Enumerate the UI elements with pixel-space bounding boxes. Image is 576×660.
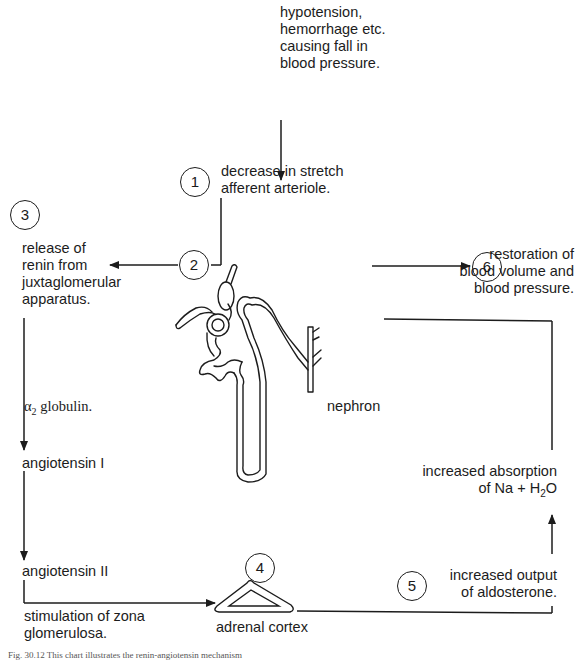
step-3-badge: 3 [10,200,40,230]
step-6-text: restoration of blood volume and blood pr… [420,246,574,297]
step-3-text: release of renin from juxtaglomerular ap… [22,240,121,308]
absorption-label: increased absorption of Na + H2O [395,463,557,502]
alpha-globulin-label: α2 globulin. [24,398,92,420]
step-1-badge: 1 [180,167,210,197]
stimulation-label: stimulation of zona glomerulosa. [24,608,145,642]
step-5-text: increased output of aldosterone. [420,567,557,601]
angiotensin-1-label: angiotensin I [22,455,104,472]
absorption-end: O [546,480,557,496]
nephron-icon [176,265,321,482]
figure-caption: Fig. 30.12 This chart illustrates the re… [8,650,242,660]
absorption-text: increased absorption of Na + H [422,463,557,496]
alpha-symbol: α [24,398,32,414]
step-1-text: decrease in stretch afferent arteriole. [221,163,344,197]
step-4-badge: 4 [245,553,275,583]
adrenal-cortex-icon [215,581,293,613]
step-2-badge: 2 [179,250,209,280]
alpha-text: globulin. [37,398,93,414]
nephron-label: nephron [327,398,380,415]
adrenal-cortex-label: adrenal cortex [216,619,308,636]
angiotensin-2-label: angiotensin II [22,563,108,580]
trigger-text: hypotension, hemorrhage etc. causing fal… [280,4,386,72]
